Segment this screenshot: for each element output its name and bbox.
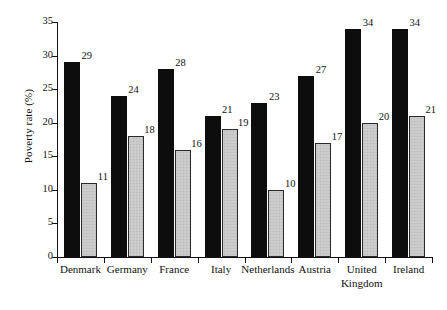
bar-value-label: 27	[316, 64, 327, 75]
y-tick-label: 35	[43, 15, 54, 27]
bar-group: 2717	[291, 22, 338, 257]
bar-value-label: 21	[222, 104, 233, 115]
plot-area: 05101520253035 2911241828162119231027173…	[57, 22, 432, 257]
bar-dark: 27	[298, 76, 314, 257]
bar-value-label: 24	[128, 84, 139, 95]
bar-group: 2418	[104, 22, 151, 257]
bar-light: 20	[362, 123, 378, 257]
y-tick-label: 30	[43, 49, 54, 61]
y-tick-label: 20	[43, 116, 54, 128]
bar-group: 2816	[151, 22, 198, 257]
bar-light: 18	[128, 136, 144, 257]
bar-dark: 34	[345, 29, 361, 257]
bar-light: 11	[81, 183, 97, 257]
bar-light: 17	[315, 143, 331, 257]
bar-group: 2119	[198, 22, 245, 257]
bar-value-label: 23	[269, 91, 280, 102]
bar-group: 2310	[245, 22, 292, 257]
y-tick-label: 25	[43, 82, 54, 94]
bar-value-label: 34	[363, 17, 374, 28]
bar-light: 19	[222, 129, 238, 257]
x-axis-labels: DenmarkGermanyFranceItalyNetherlandsAust…	[57, 262, 432, 308]
bar-group: 2911	[57, 22, 104, 257]
bar-group: 3421	[385, 22, 432, 257]
y-tick-label: 5	[48, 216, 53, 228]
bar-value-label: 28	[175, 57, 186, 68]
y-tick-label: 15	[43, 149, 54, 161]
bar-light: 16	[175, 150, 191, 257]
bar-dark: 21	[205, 116, 221, 257]
bar-value-label: 34	[410, 17, 421, 28]
bar-dark: 28	[158, 69, 174, 257]
y-tick-label: 10	[43, 183, 54, 195]
bar-dark: 34	[392, 29, 408, 257]
y-tick-label: 0	[48, 250, 53, 262]
bar-dark: 23	[251, 103, 267, 257]
poverty-rate-bar-chart: Poverty rate (%) 05101520253035 29112418…	[0, 0, 447, 310]
x-axis-label: Ireland	[377, 262, 440, 276]
bar-value-label: 21	[426, 104, 437, 115]
bar-light: 10	[268, 190, 284, 257]
bar-group: 3420	[338, 22, 385, 257]
bar-value-label: 29	[81, 50, 92, 61]
y-axis-title: Poverty rate (%)	[22, 46, 34, 206]
bar-dark: 24	[111, 96, 127, 257]
bar-dark: 29	[64, 62, 80, 257]
bar-light: 21	[409, 116, 425, 257]
